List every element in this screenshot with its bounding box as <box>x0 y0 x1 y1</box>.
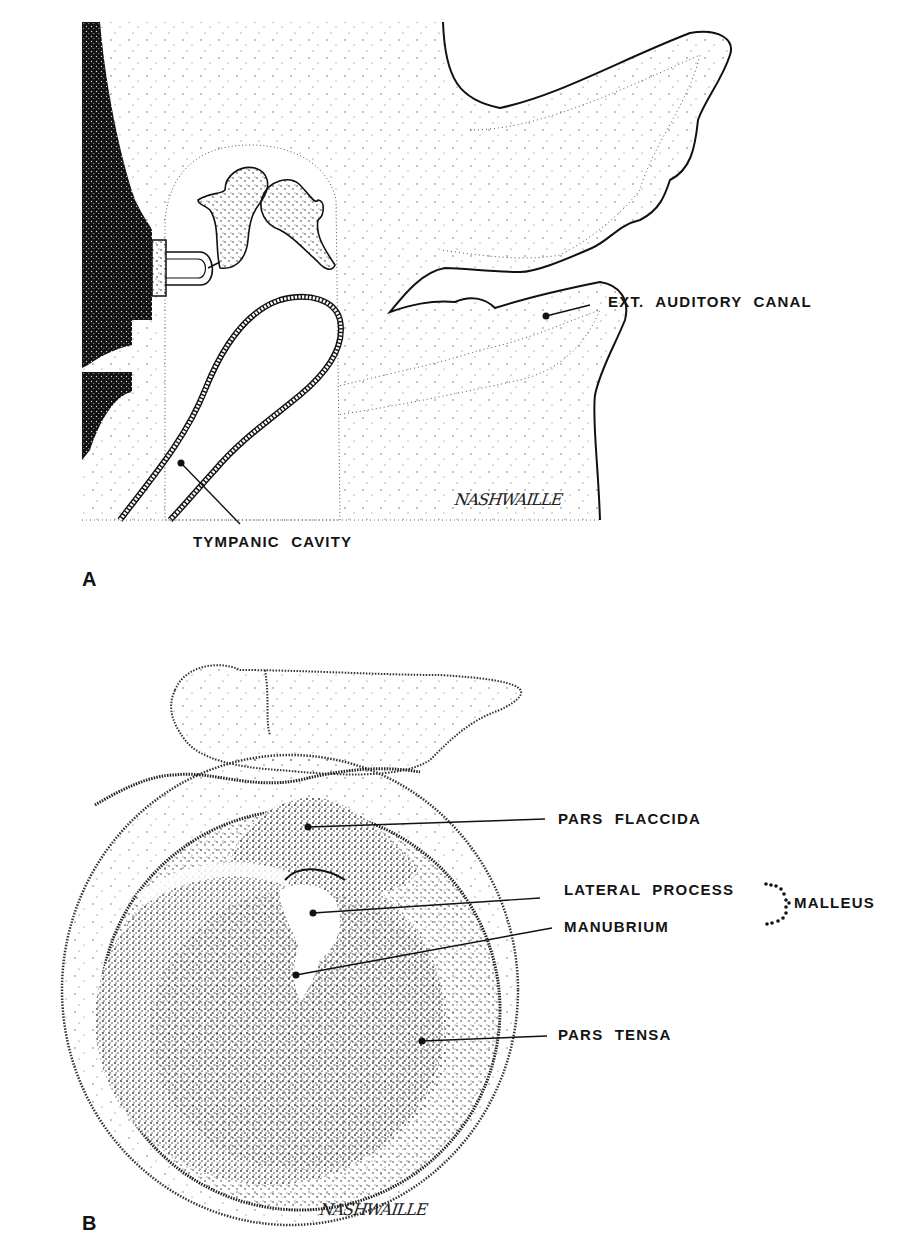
ear-anatomy-illustration <box>0 0 916 1251</box>
panel-b-diagram <box>62 665 791 1225</box>
label-malleus: MALLEUS <box>794 894 875 911</box>
label-pars-flaccida: PARS FLACCIDA <box>558 810 701 827</box>
artist-signature-b: NASHWAILLE <box>319 1200 429 1219</box>
stapes-ossicle <box>152 240 166 296</box>
artist-signature-a: NASHWAILLE <box>454 490 564 509</box>
panel-letter-b: B <box>82 1212 96 1235</box>
panel-letter-a: A <box>82 568 96 591</box>
malleus-bracket-icon <box>764 882 791 926</box>
label-ext-auditory-canal: EXT. AUDITORY CANAL <box>608 293 812 310</box>
panel-a-diagram <box>82 22 731 524</box>
label-lateral-process: LATERAL PROCESS <box>564 881 734 898</box>
label-pars-tensa: PARS TENSA <box>558 1026 672 1043</box>
label-tympanic-cavity: TYMPANIC CAVITY <box>193 533 352 550</box>
malleus-head-mass <box>171 665 521 774</box>
label-manubrium: MANUBRIUM <box>564 918 669 935</box>
